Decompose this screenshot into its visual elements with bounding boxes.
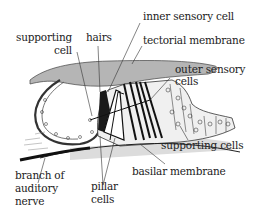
label-branch-nerve-3: nerve bbox=[15, 196, 44, 207]
label-pillar-cells-2: cells bbox=[91, 194, 114, 205]
label-hairs: hairs bbox=[86, 32, 112, 43]
supporting-cell-loop bbox=[35, 80, 100, 144]
label-tectorial-membrane: tectorial membrane bbox=[143, 35, 245, 46]
label-supporting-cell-2: cell bbox=[54, 45, 72, 56]
label-outer-sensory-1: outer sensory bbox=[175, 64, 245, 75]
label-branch-nerve-1: branch of bbox=[15, 170, 64, 181]
label-basilar-membrane: basilar membrane bbox=[132, 166, 226, 177]
label-branch-nerve-2: auditory bbox=[15, 183, 58, 194]
label-outer-sensory-2: cells bbox=[175, 76, 198, 87]
label-pillar-cells-1: pillar bbox=[91, 181, 118, 192]
label-supporting-cell-1: supporting bbox=[16, 32, 72, 43]
leader-pillar-1 bbox=[100, 136, 103, 185]
label-inner-sensory-cell: inner sensory cell bbox=[143, 11, 234, 22]
label-supporting-cells: supporting cells bbox=[161, 140, 243, 151]
